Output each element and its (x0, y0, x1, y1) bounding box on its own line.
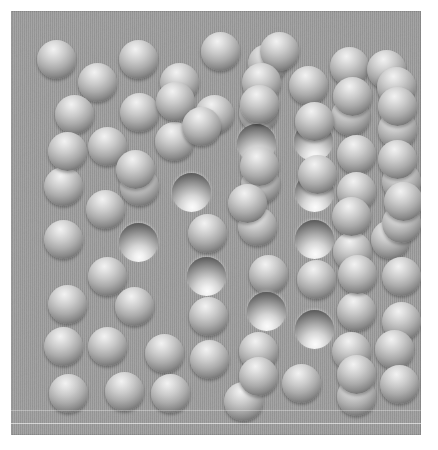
bump-disc (295, 102, 334, 141)
bump-disc (116, 150, 155, 189)
bump-disc (337, 292, 376, 331)
dimple-disc (247, 292, 286, 331)
bump-disc (375, 330, 414, 369)
screenshot-canvas (0, 0, 438, 450)
bump-disc (289, 66, 328, 105)
bump-disc (249, 255, 288, 294)
bump-disc (384, 182, 422, 221)
bump-disc (382, 257, 421, 296)
bump-disc (48, 132, 87, 171)
bump-disc (105, 372, 144, 411)
bump-disc (189, 297, 228, 336)
dimple-disc (172, 173, 211, 212)
bump-disc (337, 355, 376, 394)
bump-disc (239, 357, 278, 396)
shading-illusion-panel (11, 11, 421, 435)
dimple-disc (119, 223, 158, 262)
bump-disc (120, 93, 159, 132)
bump-disc (37, 40, 76, 79)
bump-disc (44, 327, 83, 366)
bump-disc (55, 95, 94, 134)
bump-disc (240, 85, 279, 124)
dimple-disc (187, 257, 226, 296)
bump-disc (333, 77, 372, 116)
bump-disc (49, 374, 88, 413)
bump-disc (48, 285, 87, 324)
dimple-disc (295, 310, 334, 349)
bump-disc (282, 364, 321, 403)
bump-disc (78, 63, 117, 102)
bump-disc (337, 135, 376, 174)
bump-disc (182, 107, 221, 146)
bump-disc (332, 197, 371, 236)
bump-disc (190, 340, 229, 379)
bump-disc (88, 327, 127, 366)
bump-disc (338, 255, 377, 294)
panel-hairline (11, 423, 421, 424)
bump-disc (297, 260, 336, 299)
bump-disc (380, 365, 419, 404)
bump-disc (119, 40, 158, 79)
bump-disc (88, 257, 127, 296)
bump-disc (201, 32, 240, 71)
bump-disc (44, 167, 83, 206)
bump-disc (115, 287, 154, 326)
bump-disc (86, 190, 125, 229)
dimple-disc (295, 220, 334, 259)
bump-disc (145, 334, 184, 373)
bump-disc (188, 214, 227, 253)
bump-disc (378, 140, 417, 179)
bump-disc (44, 220, 83, 259)
bump-disc (378, 87, 417, 126)
bump-disc (298, 155, 337, 194)
bump-disc (240, 147, 279, 186)
bump-disc (228, 184, 267, 223)
bump-disc (151, 374, 190, 413)
